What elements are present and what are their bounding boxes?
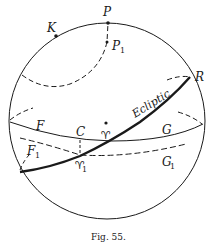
label-r: R bbox=[194, 70, 204, 84]
label-ecliptic: Ecliptic bbox=[129, 87, 173, 121]
celestial-sphere-diagram: P K P 1 R Ecliptic F F 1 C ♈ ♈ 1 G G 1 F… bbox=[0, 0, 209, 244]
label-aries: ♈ bbox=[101, 129, 111, 142]
label-p: P bbox=[102, 5, 112, 19]
label-f: F bbox=[35, 119, 45, 133]
figure-caption: Fig. 55. bbox=[91, 232, 126, 242]
label-g1-sub: 1 bbox=[170, 162, 175, 171]
point-aries bbox=[104, 121, 107, 124]
label-p1-sub: 1 bbox=[120, 46, 125, 55]
label-f1-sub: 1 bbox=[35, 151, 40, 160]
label-k: K bbox=[46, 21, 57, 35]
point-p1 bbox=[106, 41, 109, 44]
dashed-arc-left-back bbox=[10, 108, 33, 120]
point-p bbox=[106, 21, 110, 25]
label-g: G bbox=[162, 123, 172, 137]
label-aries1-sub: 1 bbox=[82, 165, 87, 174]
dashed-arc-right-back bbox=[178, 112, 202, 124]
label-c: C bbox=[76, 125, 85, 139]
